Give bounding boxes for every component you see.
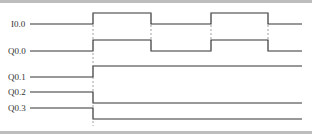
signal-label-q0-2: Q0.2 (8, 87, 26, 97)
waveform-q0-1 (30, 66, 302, 77)
waveform-q0-0 (30, 40, 302, 51)
signal-label-q0-3: Q0.3 (8, 103, 26, 113)
timing-diagram: I0.0 Q0.0 Q0.1 Q0.2 Q0.3 (0, 0, 312, 134)
signal-label-q0-0: Q0.0 (8, 46, 26, 56)
signal-label-q0-1: Q0.1 (8, 72, 26, 82)
signal-label-i0-0: I0.0 (11, 19, 26, 29)
waveform-i0-0 (30, 13, 302, 24)
waveform-q0-3 (30, 108, 302, 119)
waveform-q0-2 (30, 92, 302, 103)
waveform-canvas: I0.0 Q0.0 Q0.1 Q0.2 Q0.3 (0, 0, 312, 134)
